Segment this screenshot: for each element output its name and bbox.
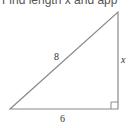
triangle-shape bbox=[10, 12, 118, 109]
vertical-side-label: x bbox=[120, 54, 126, 65]
right-angle-marker bbox=[111, 102, 118, 109]
base-label: 6 bbox=[60, 113, 65, 124]
hypotenuse-label: 8 bbox=[54, 51, 59, 62]
right-triangle-diagram: 8 x 6 bbox=[0, 0, 130, 128]
